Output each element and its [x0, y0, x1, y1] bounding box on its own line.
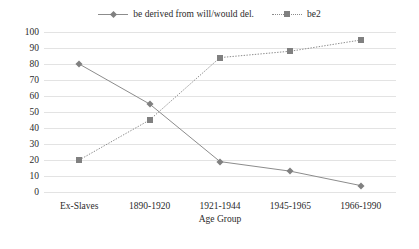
x-axis-tick-label: 1945-1965 — [270, 201, 311, 211]
x-axis-tick-label: Ex-Slaves — [60, 201, 99, 211]
x-axis-tick-label: 1966-1990 — [340, 201, 381, 211]
y-axis-tick-label: 30 — [30, 139, 40, 149]
data-point — [217, 55, 223, 61]
y-axis-tick-label: 50 — [30, 107, 40, 117]
gridline — [44, 192, 396, 193]
y-axis-tick-label: 40 — [30, 123, 40, 133]
data-point — [287, 48, 293, 54]
y-axis-tick-label: 80 — [30, 59, 40, 69]
legend-label-series-1: be derived from will/would del. — [133, 9, 254, 19]
legend-line-solid-diamond-icon — [98, 10, 128, 19]
y-axis-tick-label: 90 — [30, 43, 40, 53]
legend-line-dotted-square-icon — [272, 10, 302, 19]
chart-legend: be derived from will/would del. be2 — [0, 6, 419, 22]
legend-item-series-1[interactable]: be derived from will/would del. — [98, 9, 254, 19]
line-chart: be derived from will/would del. be2 0102… — [0, 0, 419, 249]
y-axis-tick-label: 0 — [34, 187, 39, 197]
data-point — [358, 37, 364, 43]
legend-item-series-2[interactable]: be2 — [272, 9, 321, 19]
y-axis-tick-label: 60 — [30, 91, 40, 101]
x-axis-title: Age Group — [44, 214, 396, 224]
data-point — [76, 157, 82, 163]
y-axis-tick-label: 70 — [30, 75, 40, 85]
data-point — [147, 117, 153, 123]
y-axis-tick-label: 10 — [30, 171, 40, 181]
plot-area: 0102030405060708090100 Ex-Slaves1890-192… — [44, 32, 396, 192]
legend-label-series-2: be2 — [307, 9, 321, 19]
x-axis-tick-label: 1890-1920 — [129, 201, 170, 211]
y-axis-tick-label: 100 — [25, 27, 39, 37]
series-line-1 — [79, 64, 361, 186]
y-axis-tick-label: 20 — [30, 155, 40, 165]
x-axis-tick-label: 1921-1944 — [199, 201, 240, 211]
